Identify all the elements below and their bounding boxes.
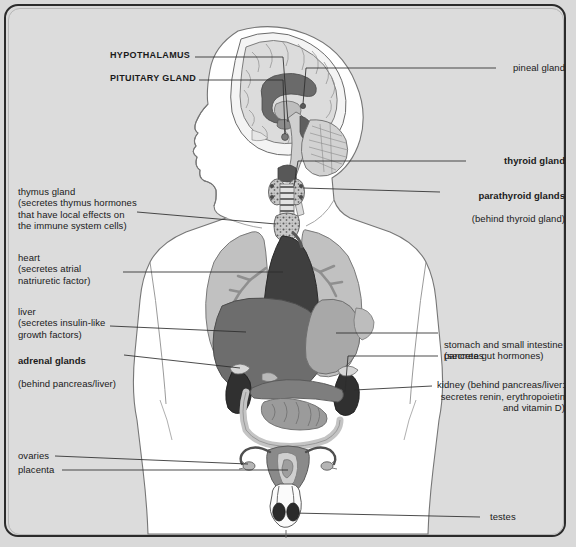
label-parathyroid-head: parathyroid glands	[380, 190, 565, 202]
pituitary-structure	[282, 134, 289, 141]
ovary-right	[321, 462, 333, 470]
label-pituitary-gland: PITUITARY GLAND	[110, 73, 196, 85]
label-adrenal-sub: (behind pancreas/liver)	[18, 378, 163, 390]
ovary-left	[243, 462, 255, 470]
label-thymus-sub: (secretes thymus hormones that have loca…	[18, 197, 158, 232]
label-heart-head: heart	[18, 252, 40, 263]
label-adrenal-head: adrenal glands	[18, 355, 163, 367]
parathyroid-dot	[299, 184, 303, 188]
label-stomach-head: stomach and small intestine	[444, 339, 563, 350]
testis-right	[287, 503, 299, 521]
label-thymus-gland: thymus gland (secretes thymus hormones t…	[18, 174, 158, 244]
label-hypothalamus: HYPOTHALAMUS	[110, 50, 190, 62]
label-thymus-head: thymus gland	[18, 186, 75, 197]
label-placenta: placenta	[18, 464, 54, 476]
label-liver-head: liver	[18, 306, 36, 317]
label-heart-sub: (secretes atrial natriuretic factor)	[18, 263, 158, 286]
pineal-structure	[300, 103, 305, 108]
label-adrenal-glands: adrenal glands (behind pancreas/liver)	[18, 343, 163, 401]
label-ovaries: ovaries	[18, 450, 49, 462]
label-parathyroid-sub: (behind thyroid gland)	[380, 213, 565, 225]
parathyroid-dot	[270, 195, 274, 199]
label-parathyroid-glands: parathyroid glands (behind thyroid gland…	[380, 178, 565, 236]
testis-left	[273, 503, 285, 521]
label-pineal-gland: pineal gland	[400, 62, 565, 74]
diagram-page: HYPOTHALAMUS PITUITARY GLAND pineal glan…	[0, 0, 576, 547]
label-kidney: kidney (behind pancreas/liver: secretes …	[400, 379, 565, 414]
label-thyroid-gland: thyroid gland	[400, 155, 565, 167]
parathyroid-dot	[299, 195, 303, 199]
label-liver-sub: (secretes insulin-like growth factors)	[18, 317, 158, 340]
label-pancreas: pancreas	[444, 350, 484, 362]
label-heart: heart (secretes atrial natriuretic facto…	[18, 240, 158, 298]
parathyroid-dot	[270, 184, 274, 188]
label-testes: testes	[490, 511, 516, 523]
